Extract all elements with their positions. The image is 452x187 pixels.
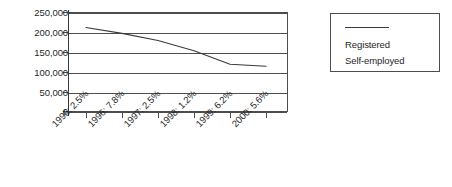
y-axis-label-200000: 200,000 xyxy=(6,28,68,38)
x-tick-2 xyxy=(158,112,159,118)
data-series-registered xyxy=(68,12,288,112)
chart-figure: 250,000 200,000 150,000 100,000 50,000 0… xyxy=(0,0,452,187)
y-axis-label-50000: 50,000 xyxy=(6,88,68,98)
y-axis-label-150000: 150,000 xyxy=(6,48,68,58)
x-tick-5 xyxy=(266,112,267,118)
y-axis-label-250000: 250,000 xyxy=(6,8,68,18)
legend-label-registered: Registered xyxy=(345,40,390,50)
x-tick-3 xyxy=(194,112,195,118)
x-tick-4 xyxy=(230,112,231,118)
x-tick-1 xyxy=(122,112,123,118)
legend-line-swatch xyxy=(345,27,389,28)
legend-label-self-employed: Self-employed xyxy=(345,56,404,66)
legend: Registered Self-employed xyxy=(330,13,440,72)
y-axis-label-100000: 100,000 xyxy=(6,68,68,78)
x-tick-0 xyxy=(86,112,87,118)
